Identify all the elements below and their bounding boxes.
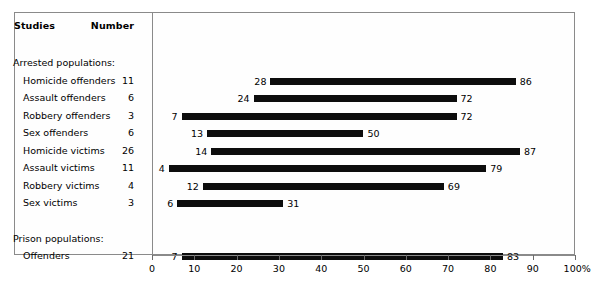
table-row-number: 11	[0, 75, 134, 86]
x-axis-tick	[364, 255, 365, 260]
x-axis-tick-label: 10	[188, 263, 200, 274]
x-axis-tick	[533, 255, 534, 260]
x-axis-tick-label: 40	[315, 263, 327, 274]
x-axis-tick-label: 80	[484, 263, 496, 274]
x-axis-tick-label: 90	[527, 263, 539, 274]
group-header: Prison populations:	[13, 233, 104, 244]
table-row-number: 4	[0, 180, 134, 191]
x-axis-tick-label: 70	[442, 263, 454, 274]
table-row-number: 26	[0, 145, 134, 156]
x-axis-tick-label: 0	[149, 263, 155, 274]
x-axis-tick-label: 50	[357, 263, 369, 274]
table-row-number: 6	[0, 127, 134, 138]
plot-area	[152, 12, 575, 255]
column-header-number: Number	[14, 20, 134, 31]
table-row-number: 6	[0, 92, 134, 103]
table-row-number: 11	[0, 162, 134, 173]
x-axis-tick	[279, 255, 280, 260]
x-axis-tick	[448, 255, 449, 260]
table-row-number: 21	[0, 250, 134, 261]
x-axis-tick	[237, 255, 238, 260]
x-axis-tick-label: 30	[273, 263, 285, 274]
x-axis-tick-label: 100%	[564, 263, 591, 274]
x-axis-tick-label: 20	[231, 263, 243, 274]
x-axis-tick	[194, 255, 195, 260]
x-axis-tick	[321, 255, 322, 260]
x-axis-tick	[152, 255, 153, 260]
table-row-number: 3	[0, 110, 134, 121]
x-axis-tick	[406, 255, 407, 260]
x-axis-tick	[490, 255, 491, 260]
x-axis-tick-label: 60	[400, 263, 412, 274]
table-row-number: 3	[0, 197, 134, 208]
x-axis-tick	[575, 255, 576, 260]
group-header: Arrested populations:	[13, 57, 115, 68]
